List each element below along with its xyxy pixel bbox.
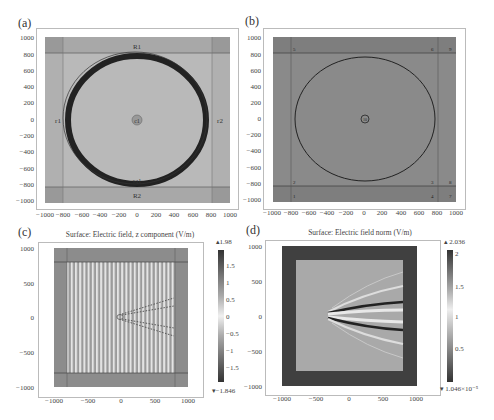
label-c1: c1 — [134, 118, 140, 124]
panel-a-label: (a) — [18, 16, 31, 31]
label-sq1: sq1 — [133, 178, 141, 184]
label-r1: r1 — [55, 117, 61, 125]
label-10: 10 — [363, 117, 367, 122]
panel-b-label: (b) — [245, 14, 259, 29]
panel-c-label: (c) — [18, 225, 31, 240]
panel-c-plot — [54, 248, 188, 387]
panel-d-cbar-min: ▾ 1.046×10⁻⁵ — [440, 385, 478, 393]
label-R1: R1 — [133, 43, 142, 51]
label-r2: r2 — [217, 117, 223, 125]
label-R2: R2 — [133, 192, 142, 200]
panel-d-label: (d) — [246, 223, 260, 238]
panel-b-plot: 5 6 9 2 3 8 1 4 7 10 — [273, 37, 456, 202]
panel-c-colorbar — [218, 250, 224, 382]
panel-d-colorbar — [447, 250, 453, 382]
panel-c-title: Surface: Electric field, z component (V/… — [50, 230, 210, 239]
panel-a-plot: R1 R2 r1 r2 c1 sq1 — [45, 37, 230, 203]
panel-d-plot — [282, 246, 417, 386]
panel-d-cbar-max: ▴ 2.036 — [444, 238, 465, 246]
panel-d-title: Surface: Electric field norm (V/m) — [290, 228, 430, 237]
